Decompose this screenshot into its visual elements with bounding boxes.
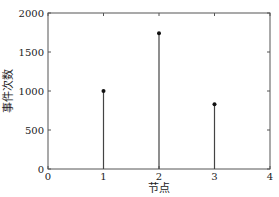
y-tick-label: 0: [38, 164, 44, 175]
y-tick-label: 1000: [19, 86, 44, 97]
x-tick-label: 0: [45, 171, 51, 182]
x-tick-label: 3: [211, 171, 217, 182]
x-tick-label: 4: [267, 171, 273, 182]
x-tick-label: 2: [156, 171, 162, 182]
stem-marker: [213, 102, 217, 106]
stem-marker: [157, 31, 161, 35]
y-axis-label: 事件次数: [1, 69, 15, 113]
stem-marker: [102, 89, 106, 93]
x-tick-label: 1: [100, 171, 106, 182]
x-axis-label: 节点: [148, 182, 170, 195]
y-tick-label: 2000: [19, 8, 44, 19]
y-tick-label: 1500: [19, 47, 44, 58]
stem-chart: 012340500100015002000节点事件次数: [0, 0, 279, 197]
y-tick-label: 500: [25, 125, 44, 136]
